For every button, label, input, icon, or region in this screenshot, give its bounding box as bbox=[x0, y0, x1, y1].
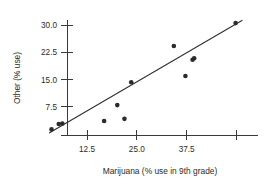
x-axis-title: Marijuana (% use in 9th grade) bbox=[103, 166, 218, 176]
regression-line bbox=[49, 20, 242, 133]
x-axis-group: 12.5 25.0 37.5 Marijuana (% use in 9th g… bbox=[61, 130, 258, 176]
y-tick-label-30: 30.0 bbox=[41, 21, 57, 30]
data-point bbox=[102, 119, 107, 124]
x-tick-label-12-5: 12.5 bbox=[79, 145, 95, 154]
y-tick-label-22-5: 22.5 bbox=[41, 48, 57, 57]
data-point bbox=[192, 56, 197, 61]
scatter-plot-figure: 30.0 22.5 15.0 7.5 Other (% use) 12.5 25… bbox=[0, 0, 267, 187]
y-axis-group: 30.0 22.5 15.0 7.5 Other (% use) bbox=[12, 20, 73, 135]
y-tick-label-15: 15.0 bbox=[41, 76, 57, 85]
y-tick-label-7-5: 7.5 bbox=[46, 103, 58, 112]
data-point bbox=[122, 117, 127, 122]
data-point bbox=[129, 80, 134, 85]
data-point bbox=[233, 21, 238, 26]
x-tick-label-37-5: 37.5 bbox=[179, 145, 195, 154]
data-point bbox=[49, 127, 54, 132]
data-point bbox=[172, 44, 177, 49]
data-point bbox=[183, 74, 188, 79]
y-axis-title: Other (% use) bbox=[12, 52, 22, 104]
data-point bbox=[115, 103, 120, 108]
x-tick-label-25: 25.0 bbox=[129, 145, 145, 154]
plot-canvas: 30.0 22.5 15.0 7.5 Other (% use) 12.5 25… bbox=[0, 0, 267, 187]
data-points-group bbox=[49, 21, 238, 132]
data-point bbox=[60, 121, 65, 126]
